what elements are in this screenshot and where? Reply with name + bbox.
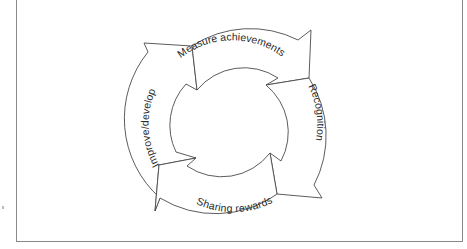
cycle-diagram: Measure achievements Recognition Sharing… bbox=[0, 0, 467, 249]
